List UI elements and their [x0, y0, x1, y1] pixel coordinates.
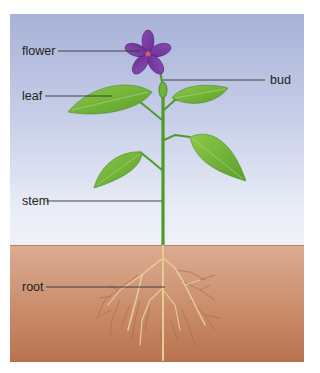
- leaf-upper-left: [68, 85, 152, 114]
- root-hairs: [95, 270, 220, 350]
- label-bud: bud: [270, 73, 291, 87]
- label-stem: stem: [22, 194, 49, 208]
- label-flower: flower: [22, 44, 55, 58]
- label-leaf: leaf: [22, 89, 42, 103]
- leaf-upper-right: [172, 85, 228, 103]
- roots: [108, 245, 205, 360]
- flower: [123, 30, 172, 77]
- leaf-lower-right: [190, 134, 246, 181]
- label-root: root: [22, 280, 44, 294]
- bud: [159, 82, 167, 98]
